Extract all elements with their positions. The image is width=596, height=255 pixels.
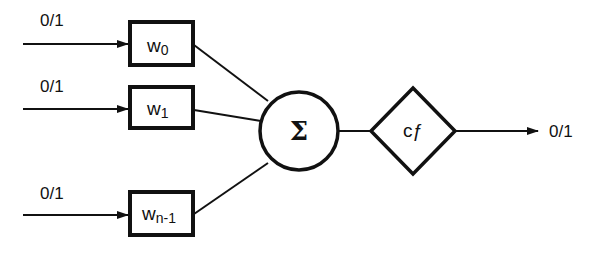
activation-function-label: cƒ <box>403 120 423 141</box>
output: 0/1 <box>455 122 573 141</box>
connector-0 <box>194 45 268 101</box>
output-label: 0/1 <box>549 122 573 141</box>
input-n-1-label: 0/1 <box>40 184 64 203</box>
input-n-1: 0/1 wn-1 <box>23 163 268 235</box>
connector-1 <box>194 110 261 121</box>
perceptron-diagram: 0/1 w0 0/1 w1 0/1 wn-1 Σ cƒ 0/1 <box>0 0 596 255</box>
summation-node: Σ <box>260 92 338 170</box>
connector-n-1 <box>194 163 268 214</box>
activation-node: cƒ <box>371 88 455 174</box>
input-0-label: 0/1 <box>40 11 64 30</box>
sigma-symbol: Σ <box>290 116 308 146</box>
input-1-label: 0/1 <box>40 77 64 96</box>
input-1: 0/1 w1 <box>23 77 261 128</box>
